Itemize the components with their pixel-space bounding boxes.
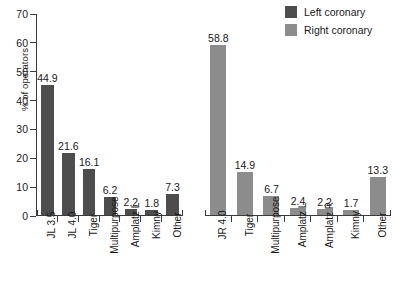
x-axis-label: Tiger — [245, 214, 255, 236]
y-tick — [30, 158, 36, 159]
left-coronary-panel: 44.921.616.16.22.21.87.3 JL 3.5JL 4.0Tig… — [37, 14, 183, 216]
bar-slot: 21.6 — [58, 14, 79, 215]
x-axis-label: Kimny — [351, 211, 361, 239]
bar: 13.3 — [370, 177, 386, 215]
y-tick — [30, 216, 36, 217]
x-axis-label: Amplatz L — [298, 203, 308, 247]
bar-slot: 58.8 — [205, 14, 232, 215]
legend-swatch-icon — [285, 6, 297, 18]
bar-chart: % of operators 010203040506070 44.921.61… — [0, 0, 396, 293]
bar-slot: 1.7 — [338, 14, 365, 215]
left-coronary-bars: 44.921.616.16.22.21.87.3 — [37, 14, 183, 215]
bar: 14.9 — [237, 172, 253, 215]
bar-value-label: 21.6 — [58, 141, 78, 152]
bar-value-label: 6.7 — [264, 184, 279, 195]
x-axis-label: Amplatz L — [131, 203, 141, 247]
bar-slot: 2.2 — [311, 14, 338, 215]
bar-slot: 6.2 — [100, 14, 121, 215]
x-axis-label: Other — [173, 212, 183, 237]
bar-slot: 2.4 — [285, 14, 312, 215]
right-coronary-bars: 58.814.96.72.42.21.713.3 — [205, 14, 391, 215]
x-label-slot: Amplatz R — [311, 217, 338, 293]
bar-value-label: 6.2 — [103, 185, 118, 196]
bar-slot: 13.3 — [364, 14, 391, 215]
bar: 16.1 — [83, 169, 96, 215]
right-x-labels: JR 4.0TigerMultipurposeAmplatz LAmplatz … — [205, 217, 391, 293]
x-label-slot: Amplatz L — [120, 217, 141, 293]
x-label-slot: JL 4.0 — [58, 217, 79, 293]
bar: 58.8 — [210, 45, 226, 215]
bar-slot: 16.1 — [79, 14, 100, 215]
x-axis-label: Amplatz R — [325, 202, 335, 248]
bar-slot: 2.2 — [120, 14, 141, 215]
x-label-slot: Multipurpose — [100, 217, 121, 293]
bar-value-label: 1.7 — [344, 198, 359, 209]
x-label-slot: JR 4.0 — [205, 217, 232, 293]
x-axis-label: JR 4.0 — [218, 211, 228, 240]
x-label-slot: Tiger — [79, 217, 100, 293]
y-tick-label: 50 — [2, 67, 28, 77]
x-axis-label: Multipurpose — [110, 196, 120, 253]
x-label-slot: Amplatz L — [285, 217, 312, 293]
y-tick-label: 60 — [2, 38, 28, 48]
bar-value-label: 13.3 — [368, 165, 388, 176]
bar-value-label: 16.1 — [79, 157, 99, 168]
x-axis-label: JL 3.5 — [47, 212, 57, 239]
y-tick — [30, 129, 36, 130]
left-x-labels: JL 3.5JL 4.0TigerMultipurposeAmplatz LKi… — [37, 217, 183, 293]
y-tick-label: 0 — [2, 211, 28, 221]
legend-label: Left coronary — [304, 7, 365, 18]
bar: 44.9 — [41, 85, 54, 215]
bar-slot: 44.9 — [37, 14, 58, 215]
x-label-slot: Kimny — [338, 217, 365, 293]
x-label-slot: Other — [162, 217, 183, 293]
legend-item: Left coronary — [285, 6, 372, 18]
y-tick — [30, 100, 36, 101]
x-axis-label: Kimny — [152, 211, 162, 239]
x-axis-label: Other — [378, 212, 388, 237]
x-axis-label: Tiger — [89, 214, 99, 236]
y-tick-label: 70 — [2, 9, 28, 19]
y-tick-label: 20 — [2, 153, 28, 163]
x-label-slot: Tiger — [232, 217, 259, 293]
x-axis-label: JL 4.0 — [68, 212, 78, 239]
x-label-slot: Kimny — [141, 217, 162, 293]
legend-item: Right coronary — [285, 24, 372, 36]
bar-value-label: 58.8 — [208, 33, 228, 44]
bar-slot: 7.3 — [162, 14, 183, 215]
y-tick — [30, 42, 36, 43]
x-label-slot: Other — [364, 217, 391, 293]
legend-swatch-icon — [285, 24, 297, 36]
right-coronary-panel: 58.814.96.72.42.21.713.3 JR 4.0TigerMult… — [205, 14, 391, 216]
y-tick — [30, 187, 36, 188]
y-tick-label: 10 — [2, 182, 28, 192]
bar-slot: 14.9 — [232, 14, 259, 215]
chart-legend: Left coronaryRight coronary — [285, 6, 372, 42]
x-label-slot: JL 3.5 — [37, 217, 58, 293]
y-tick — [30, 71, 36, 72]
bar-value-label: 1.8 — [144, 198, 159, 209]
bar-value-label: 44.9 — [37, 73, 57, 84]
bar: 21.6 — [62, 153, 75, 215]
legend-label: Right coronary — [304, 25, 372, 36]
y-tick — [30, 14, 36, 15]
x-label-slot: Multipurpose — [258, 217, 285, 293]
bar-value-label: 14.9 — [235, 160, 255, 171]
bar-value-label: 7.3 — [165, 182, 180, 193]
y-tick-label: 30 — [2, 124, 28, 134]
bar-slot: 6.7 — [258, 14, 285, 215]
y-tick-label: 40 — [2, 96, 28, 106]
x-axis-label: Multipurpose — [271, 196, 281, 253]
bar-slot: 1.8 — [141, 14, 162, 215]
